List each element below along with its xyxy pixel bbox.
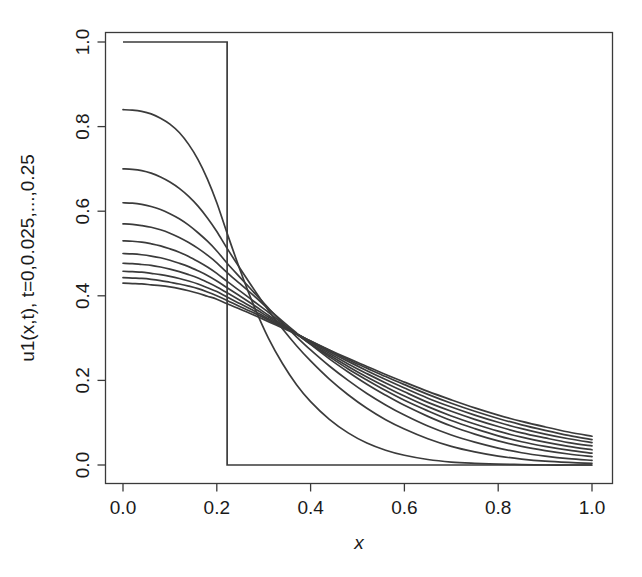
y-tick-label: 0.8 (72, 113, 93, 139)
y-tick-label: 0.0 (72, 452, 93, 478)
x-tick-label: 0.2 (204, 497, 230, 518)
y-axis-title: u1(x,t), t=0,0.025,...,0.25 (17, 154, 38, 362)
chart-figure: 0.00.20.40.60.81.0 0.00.20.40.60.81.0 u1… (0, 0, 642, 577)
line-chart-svg: 0.00.20.40.60.81.0 0.00.20.40.60.81.0 u1… (0, 0, 642, 577)
x-tick-label: 0.0 (110, 497, 136, 518)
y-tick-label: 0.4 (72, 282, 93, 309)
x-tick-label: 1.0 (579, 497, 605, 518)
x-tick-label: 0.6 (391, 497, 417, 518)
y-tick-label: 0.2 (72, 367, 93, 393)
y-tick-label: 1.0 (72, 29, 93, 55)
x-axis-title: x (353, 532, 365, 553)
x-tick-label: 0.4 (297, 497, 324, 518)
x-tick-label: 0.8 (485, 497, 511, 518)
y-tick-label: 0.6 (72, 198, 93, 224)
chart-background (0, 0, 642, 577)
